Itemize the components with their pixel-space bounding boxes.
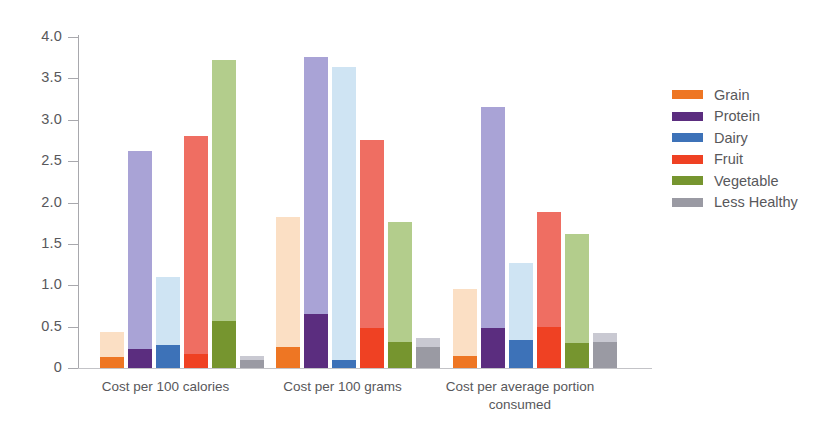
bar-dairy [156, 277, 180, 368]
bar-grain [453, 289, 477, 368]
bar-base-segment [537, 327, 561, 368]
x-axis-line [78, 368, 652, 369]
y-axis-tick-label: 3.0 [16, 112, 62, 127]
bar-upper-segment [332, 67, 356, 368]
bar-base-segment [212, 321, 236, 368]
bar-group [276, 37, 444, 368]
bar-base-segment [388, 342, 412, 368]
y-axis-tick-label: 3.5 [16, 70, 62, 85]
bar-base-segment [453, 356, 477, 368]
bar-base-segment [509, 340, 533, 368]
bar-fruit [537, 212, 561, 368]
bar-grain [276, 217, 300, 368]
legend-label: Dairy [714, 131, 748, 146]
bar-base-segment [481, 328, 505, 368]
bar-base-segment [276, 347, 300, 368]
bar-group [100, 37, 268, 368]
y-axis-tick-label: 2.5 [16, 153, 62, 168]
legend-swatch-icon [672, 176, 703, 185]
bar-base-segment [100, 357, 124, 368]
legend-swatch-icon [672, 198, 703, 207]
bar-upper-segment [276, 217, 300, 368]
y-axis-tick-label: 1.5 [16, 236, 62, 251]
legend-label: Vegetable [714, 174, 779, 189]
bar-less-healthy [593, 333, 617, 368]
legend-swatch-icon [672, 90, 703, 99]
bar-base-segment [416, 347, 440, 369]
bar-fruit [184, 136, 208, 368]
bar-base-segment [565, 343, 589, 368]
legend-item: Grain [672, 84, 798, 106]
bar-fruit [360, 140, 384, 368]
bar-base-segment [184, 354, 208, 368]
bar-vegetable [388, 222, 412, 368]
y-axis-tick-label: 4.0 [16, 29, 62, 44]
legend-swatch-icon [672, 133, 703, 142]
y-axis-tick-label: 0 [16, 360, 62, 375]
bar-base-segment [304, 314, 328, 368]
bar-vegetable [565, 234, 589, 368]
chart-legend: GrainProteinDairyFruitVegetableLess Heal… [672, 84, 798, 213]
plot-area [78, 37, 648, 368]
bar-less-healthy [416, 338, 440, 368]
legend-item: Protein [672, 106, 798, 128]
bar-base-segment [128, 349, 152, 368]
bar-upper-segment [184, 136, 208, 368]
x-axis-label: Cost per 100 grams [255, 378, 430, 396]
bar-group [453, 37, 621, 368]
legend-item: Less Healthy [672, 192, 798, 214]
bar-base-segment [593, 342, 617, 368]
bar-chart: 4.03.53.02.52.01.51.00.50 Cost per 100 c… [0, 0, 814, 430]
bar-protein [481, 107, 505, 368]
y-axis-tick-label: 0.5 [16, 319, 62, 334]
bar-grain [100, 332, 124, 368]
legend-swatch-icon [672, 112, 703, 121]
legend-item: Dairy [672, 127, 798, 149]
bar-base-segment [360, 328, 384, 368]
legend-label: Less Healthy [714, 195, 798, 210]
bar-dairy [509, 263, 533, 368]
legend-label: Grain [714, 88, 749, 103]
legend-swatch-icon [672, 155, 703, 164]
bar-vegetable [212, 60, 236, 368]
bar-base-segment [332, 360, 356, 368]
legend-item: Fruit [672, 149, 798, 171]
bar-dairy [332, 67, 356, 368]
legend-label: Protein [714, 109, 760, 124]
bar-base-segment [240, 360, 264, 368]
x-axis-label: Cost per 100 calories [78, 378, 253, 396]
legend-item: Vegetable [672, 170, 798, 192]
bar-base-segment [156, 345, 180, 368]
bar-protein [304, 57, 328, 368]
bar-less-healthy [240, 356, 264, 368]
bar-upper-segment [128, 151, 152, 368]
y-axis-tick-label: 2.0 [16, 195, 62, 210]
bar-protein [128, 151, 152, 368]
legend-label: Fruit [714, 152, 743, 167]
x-axis-label: Cost per average portion consumed [430, 378, 610, 414]
y-axis-tick-label: 1.0 [16, 277, 62, 292]
